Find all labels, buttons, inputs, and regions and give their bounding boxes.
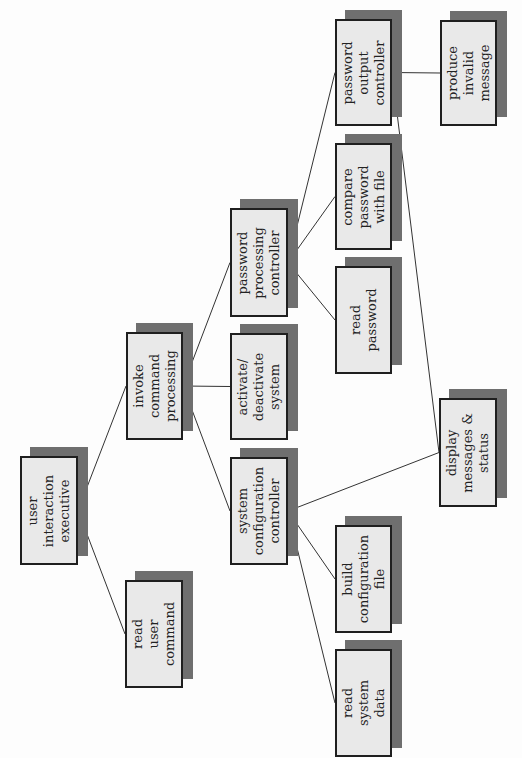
node-label-line: produce (445, 44, 461, 101)
node-label-line: invalid (461, 44, 477, 101)
node-label-line: messages & (460, 413, 476, 493)
node-box: displaymessages &status (439, 398, 497, 507)
structure-chart-canvas: userinteractionexecutivereadusercommandi… (0, 0, 522, 758)
node-label-line: user (25, 474, 41, 546)
node-box: passwordprocessingcontroller (230, 208, 288, 317)
node-label-line: data (372, 680, 388, 726)
node-label-line: interaction (41, 474, 57, 546)
node-label: produceinvalidmessage (445, 44, 493, 101)
node-label: comparepasswordwith file (340, 165, 388, 228)
node-box: comparepasswordwith file (335, 143, 392, 250)
node-label-line: display (444, 413, 460, 493)
node-label: buildconfigurationfile (340, 535, 388, 623)
node-label: displaymessages &status (444, 413, 492, 493)
node-label: readusercommand (130, 602, 178, 666)
node-box: buildconfigurationfile (335, 525, 392, 633)
node-box: userinteractionexecutive (20, 456, 78, 565)
node-label-line: command (162, 602, 178, 666)
node-label: invokecommandprocessing (131, 350, 179, 422)
node-box: readsystemdata (335, 649, 392, 757)
node-label: passwordprocessingcontroller (235, 227, 283, 299)
node-box: readpassword (335, 266, 392, 374)
node-label-line: password (364, 289, 380, 352)
node-label-line: with file (372, 165, 388, 228)
node-label-line: controller (372, 40, 388, 105)
node-label-line: output (356, 40, 372, 105)
node-label-line: read (130, 602, 146, 666)
node-label-line: read (340, 680, 356, 726)
node-box: readusercommand (125, 580, 183, 688)
node-label-line: activate/ (235, 352, 251, 420)
node-label-line: password (235, 227, 251, 299)
node-label-line: controller (267, 227, 283, 299)
node-label-line: compare (340, 165, 356, 228)
node-box: systemconfigurationcontroller (230, 457, 288, 565)
node-label: passwordoutputcontroller (340, 40, 388, 105)
node-label: readpassword (348, 289, 380, 352)
node-label: readsystemdata (340, 680, 388, 726)
node-label-line: processing (251, 227, 267, 299)
node-label-line: read (348, 289, 364, 352)
node-label-line: controller (267, 467, 283, 555)
node-box: invokecommandprocessing (126, 332, 183, 440)
node-label-line: file (372, 535, 388, 623)
node-label: activate/deactivatesystem (235, 352, 283, 420)
node-label-line: password (340, 40, 356, 105)
node-label-line: processing (163, 350, 179, 422)
node-label-line: message (477, 44, 493, 101)
node-label-line: invoke (131, 350, 147, 422)
node-label-line: command (147, 350, 163, 422)
node-label-line: configuration (251, 467, 267, 555)
node-label-line: executive (57, 474, 73, 546)
node-label-line: system (356, 680, 372, 726)
node-label-line: system (235, 467, 251, 555)
node-label-line: system (267, 352, 283, 420)
node-label: userinteractionexecutive (25, 474, 73, 546)
node-label-line: build (340, 535, 356, 623)
node-box: activate/deactivatesystem (230, 333, 288, 440)
node-label-line: password (356, 165, 372, 228)
node-label-line: deactivate (251, 352, 267, 420)
node-label: systemconfigurationcontroller (235, 467, 283, 555)
node-label-line: user (146, 602, 162, 666)
node-label-line: status (476, 413, 492, 493)
connector-system-configuration-controller-to-display-messages-status (288, 453, 439, 512)
node-box: passwordoutputcontroller (335, 19, 392, 126)
node-label-line: configuration (356, 535, 372, 623)
node-box: produceinvalidmessage (440, 20, 497, 126)
